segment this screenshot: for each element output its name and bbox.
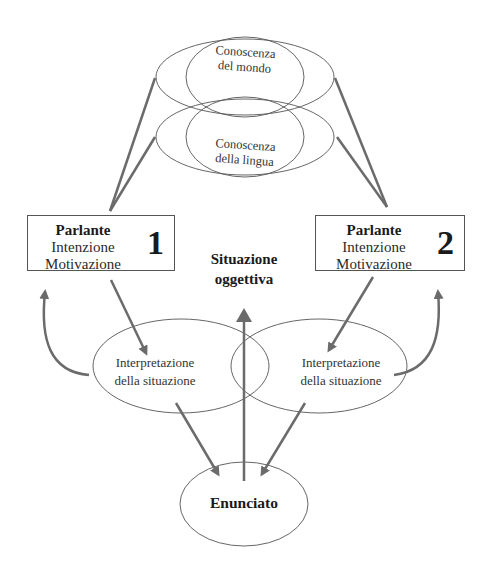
speaker1-box: Parlante Intenzione Motivazione 1 <box>27 215 175 271</box>
objective-situation-line1: Situazione <box>194 249 294 269</box>
knowledge-world-label: Conoscenza del mondo <box>199 42 291 78</box>
speaker2-motivation: Motivazione <box>316 256 432 273</box>
arrow-speaker1-to-interpretation <box>111 280 146 353</box>
utterance-label: Enunciato <box>194 494 294 513</box>
interpretation-right-label: Interpretazione della situazione <box>286 354 396 390</box>
arrow-interpretation-left-to-utterance <box>176 403 218 474</box>
speaker1-number: 1 <box>147 226 164 260</box>
speaker1-motivation: Motivazione <box>28 256 138 273</box>
knowledge-language-label: Conoscenza della lingua <box>199 135 291 171</box>
objective-situation-line2: oggettiva <box>194 269 294 289</box>
arrow-interpretation-left-feedback <box>44 292 89 375</box>
interpretation-right-line2: della situazione <box>286 372 396 390</box>
speaker2-number: 2 <box>437 226 454 260</box>
interpretation-left-line2: della situazione <box>100 372 210 390</box>
arrow-interpretation-right-to-utterance <box>262 403 305 474</box>
arrow-interpretation-right-feedback <box>394 292 439 375</box>
speaker1-intention: Intenzione <box>28 239 138 256</box>
speaker2-box: Parlante Intenzione Motivazione 2 <box>315 215 465 271</box>
interpretation-left-line1: Interpretazione <box>100 354 210 372</box>
interpretation-right-line1: Interpretazione <box>286 354 396 372</box>
speaker2-title: Parlante <box>316 222 432 239</box>
arrow-speaker2-to-interpretation <box>329 277 373 350</box>
speaker2-intention: Intenzione <box>316 239 432 256</box>
speaker1-title: Parlante <box>28 222 138 239</box>
objective-situation-label: Situazione oggettiva <box>194 249 294 289</box>
interpretation-left-label: Interpretazione della situazione <box>100 354 210 390</box>
